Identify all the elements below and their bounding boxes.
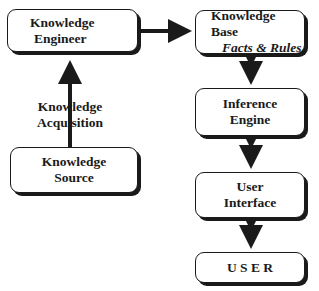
- node-label: Source: [54, 170, 94, 186]
- node-label: Interface: [224, 195, 276, 211]
- node-user-interface: User Interface: [195, 172, 305, 218]
- node-user: U S E R: [195, 252, 305, 283]
- node-label: User: [237, 179, 264, 195]
- edge-label-line: Knowledge: [30, 99, 110, 115]
- edge-label-line: Acquisition: [30, 115, 110, 131]
- node-label: U S E R: [227, 260, 273, 276]
- node-label: Engine: [230, 112, 271, 128]
- node-knowledge-source: Knowledge Source: [10, 147, 138, 193]
- node-knowledge-base: Knowledge Base Facts & Rules: [195, 10, 305, 54]
- node-label: Engineer: [30, 31, 137, 47]
- node-knowledge-engineer: Knowledge Engineer: [7, 9, 138, 52]
- node-label: Knowledge: [30, 15, 137, 31]
- node-label: Knowledge: [42, 154, 107, 170]
- node-label: Inference: [223, 96, 277, 112]
- edge-label-knowledge-acquisition: Knowledge Acquisition: [30, 99, 110, 131]
- node-inference-engine: Inference Engine: [195, 88, 305, 136]
- node-label: Knowledge Base: [211, 8, 304, 40]
- node-sublabel: Facts & Rules: [211, 40, 304, 56]
